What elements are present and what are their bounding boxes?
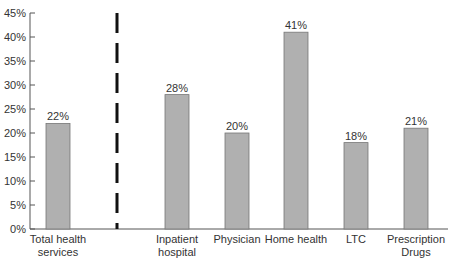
bar [404, 128, 428, 229]
category-label: services [38, 246, 79, 258]
category-label: Inpatient [156, 233, 198, 245]
category-label: LTC [346, 233, 366, 245]
y-tick-label: 0% [10, 223, 26, 235]
bar-value-label: 20% [226, 120, 248, 132]
category-label: Prescription [387, 233, 445, 245]
y-tick-label: 35% [4, 55, 26, 67]
bar-chart: 0%5%10%15%20%25%30%35%40%45%22%Total hea… [0, 0, 450, 260]
y-tick-label: 30% [4, 79, 26, 91]
bar [225, 133, 249, 229]
bar-value-label: 21% [405, 115, 427, 127]
bar-value-label: 28% [166, 82, 188, 94]
y-tick-label: 15% [4, 151, 26, 163]
category-label: hospital [158, 246, 196, 258]
category-label: Home health [265, 233, 327, 245]
y-tick-label: 20% [4, 127, 26, 139]
bar-value-label: 22% [47, 110, 69, 122]
bar-value-label: 18% [345, 130, 367, 142]
category-label: Drugs [401, 246, 431, 258]
bar [46, 123, 70, 229]
bar [284, 32, 308, 229]
y-tick-label: 45% [4, 7, 26, 19]
bar [344, 143, 368, 229]
category-label: Total health [30, 233, 86, 245]
bar-value-label: 41% [285, 19, 307, 31]
y-tick-label: 40% [4, 31, 26, 43]
y-tick-label: 25% [4, 103, 26, 115]
category-label: Physician [213, 233, 260, 245]
y-tick-label: 10% [4, 175, 26, 187]
bar [165, 95, 189, 229]
y-tick-label: 5% [10, 199, 26, 211]
